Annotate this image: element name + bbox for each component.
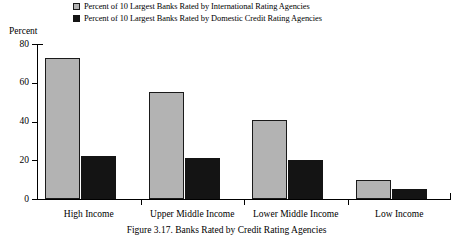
y-axis-tick: 80 [32, 44, 37, 45]
x-axis-tick [141, 199, 142, 205]
y-axis-tick-label: 40 [20, 115, 30, 127]
plot-area: 020406080High IncomeUpper Middle IncomeL… [37, 44, 451, 199]
x-axis-tick [348, 199, 349, 205]
bar-group [149, 44, 220, 199]
bar-group [45, 44, 116, 199]
legend-swatch-icon [73, 15, 80, 22]
y-axis-tick: 0 [32, 199, 37, 200]
y-axis-tick: 60 [32, 83, 37, 84]
legend-swatch-icon [73, 3, 80, 10]
y-axis-tick-label: 20 [20, 154, 30, 166]
bar [45, 58, 80, 199]
legend-item-label: Percent of 10 Largest Banks Rated by Dom… [84, 14, 322, 24]
bar [356, 180, 391, 199]
bar [252, 120, 287, 199]
legend-item: Percent of 10 Largest Banks Rated by Dom… [73, 13, 373, 24]
bar [392, 189, 427, 199]
y-axis-tick: 40 [32, 122, 37, 123]
y-axis-unit-label: Percent [9, 26, 38, 37]
chart-legend: Percent of 10 Largest Banks Rated by Int… [73, 1, 373, 25]
legend-item-label: Percent of 10 Largest Banks Rated by Int… [84, 2, 310, 12]
y-axis-line [37, 44, 38, 199]
bar [185, 158, 220, 199]
y-axis-top-cap [37, 44, 43, 45]
legend-item: Percent of 10 Largest Banks Rated by Int… [73, 1, 373, 12]
x-axis-category-label: Low Income [375, 208, 423, 220]
x-axis-category-label: High Income [64, 208, 114, 220]
y-axis-tick-label: 60 [20, 76, 30, 88]
x-axis-category-label: Lower Middle Income [253, 208, 338, 220]
bar-group [356, 44, 427, 199]
y-axis-tick-label: 0 [24, 193, 29, 205]
figure-caption: Figure 3.17. Banks Rated by Credit Ratin… [0, 224, 453, 235]
bar-group [252, 44, 323, 199]
x-axis-tick [244, 199, 245, 205]
x-axis-right-cap [450, 193, 451, 200]
bar [288, 160, 323, 199]
bar [149, 92, 184, 199]
y-axis-tick-label: 80 [20, 38, 30, 50]
x-axis-category-label: Upper Middle Income [150, 208, 234, 220]
y-axis-tick: 20 [32, 160, 37, 161]
bar [81, 156, 116, 199]
figure-container: Percent of 10 Largest Banks Rated by Int… [0, 0, 453, 235]
